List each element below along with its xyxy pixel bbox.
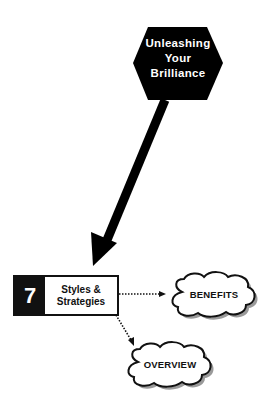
thick-arrow (91, 100, 165, 266)
step-label-line2: Strategies (57, 296, 105, 308)
step-label-line1: Styles & (57, 284, 105, 296)
step-number: 7 (15, 277, 45, 314)
cloud-benefits-label: BENEFITS (178, 289, 250, 300)
hexagon-title-line1: Unleashing (133, 36, 223, 51)
hexagon-title-line2: Your (133, 51, 223, 66)
dotted-arrow-overview (116, 315, 134, 346)
hexagon-title-line3: Brilliance (133, 66, 223, 81)
hexagon-title: Unleashing Your Brilliance (133, 36, 223, 81)
step-box: 7 Styles & Strategies (13, 275, 119, 316)
step-label: Styles & Strategies (45, 277, 117, 314)
cloud-overview-label: OVERVIEW (134, 359, 206, 370)
dotted-arrow-benefits (119, 291, 166, 297)
